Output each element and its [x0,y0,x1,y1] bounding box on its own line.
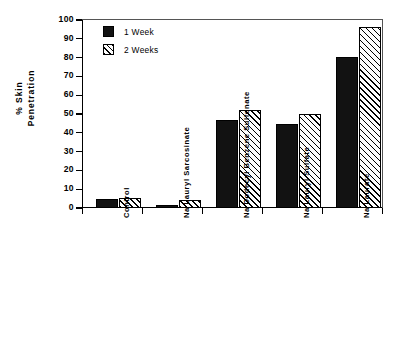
x-axis-category-label: Na Laurate [362,173,371,218]
y-axis-tick [76,76,82,77]
skin-penetration-bar-chart: % Skin Penetration 1 Week 2 Weeks 010203… [0,0,409,341]
y-axis-tick [76,132,82,133]
y-axis-tick-label: 100 [44,14,74,24]
legend-swatch-icon-1-week [103,26,114,37]
x-axis-tick [382,208,383,214]
x-axis-tick [322,208,323,214]
y-axis-tick-label: 80 [44,52,74,62]
bar-week1 [216,120,238,208]
y-axis-tick [76,57,82,58]
y-axis-tick-label: 40 [44,127,74,137]
y-axis-title-line1: % Skin [13,81,25,114]
y-axis-tick-label: 10 [44,183,74,193]
y-axis-tick [76,19,82,20]
y-axis-tick-label: 20 [44,164,74,174]
plot-frame-right-edge [382,19,383,209]
legend-label-1-week: 1 Week [124,27,154,37]
y-axis-tick [76,189,82,190]
legend-item-1-week: 1 Week [103,24,159,39]
bar-week1 [156,205,178,208]
y-axis-tick [76,95,82,96]
y-axis-title-line2: Penetration [25,70,37,127]
x-axis-tick [82,208,83,214]
bar-week1 [336,57,358,208]
legend-swatch-icon-2-weeks [103,44,114,55]
x-axis-tick [262,208,263,214]
x-axis-category-label: Na Lauryl Sarcosinate [182,127,191,218]
bar-week1 [96,199,118,208]
y-axis-tick [76,170,82,171]
x-axis-tick [202,208,203,214]
y-axis-tick-label: 70 [44,70,74,80]
y-axis-title: % Skin Penetration [5,43,45,153]
x-axis-category-label: Na Lauryl Sulfate [302,147,311,218]
legend-label-2-weeks: 2 Weeks [124,45,159,55]
y-axis-tick-label: 50 [44,108,74,118]
x-axis-category-label: Control [122,187,131,218]
y-axis-tick-label: 30 [44,146,74,156]
x-axis-category-label: Na Dodecyl Benzene Sulfonate [242,91,251,218]
y-axis-tick [76,151,82,152]
y-axis-tick [76,38,82,39]
y-axis-tick-label: 60 [44,89,74,99]
legend-item-2-weeks: 2 Weeks [103,42,159,57]
y-axis-tick [76,113,82,114]
x-axis-tick [142,208,143,214]
y-axis-tick-label: 90 [44,33,74,43]
chart-legend: 1 Week 2 Weeks [103,24,159,60]
bar-week1 [276,124,298,208]
y-axis-tick-label: 0 [44,202,74,212]
